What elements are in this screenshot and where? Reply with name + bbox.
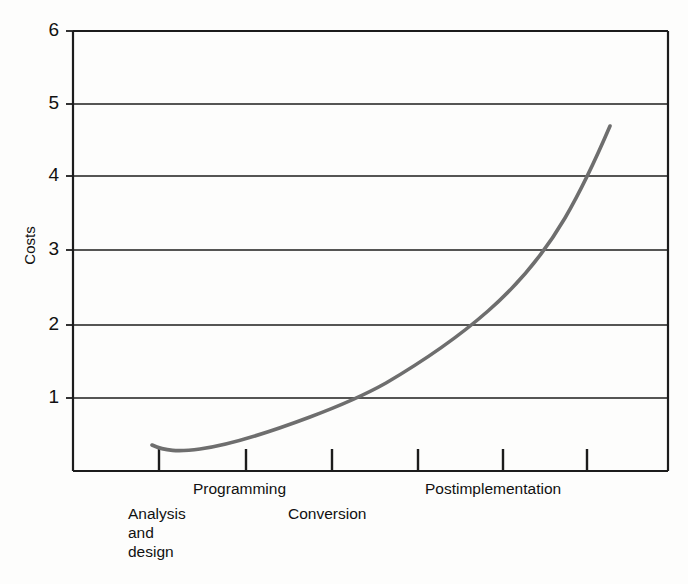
y-tick-label-4: 4: [35, 165, 59, 184]
cost-curve-figure: 6 5 4 3 2 1 Costs Programming Postimplem…: [0, 0, 688, 584]
phase-label-conversion: Conversion: [288, 504, 366, 523]
y-tick-label-1: 1: [35, 387, 59, 406]
y-tick-label-2: 2: [35, 314, 59, 333]
phase-label-postimplementation: Postimplementation: [425, 479, 561, 498]
phase-label-analysis-and-design: Analysis and design: [128, 504, 186, 561]
y-tick-label-6: 6: [35, 20, 59, 39]
y-tick-label-3: 3: [35, 239, 59, 258]
phase-label-programming: Programming: [193, 479, 286, 498]
chart-canvas: [0, 0, 688, 584]
plot-frame: [73, 31, 668, 471]
y-tick-label-5: 5: [35, 93, 59, 112]
y-axis-title: Costs: [21, 216, 38, 276]
gridlines-horizontal: [73, 104, 668, 398]
cost-curve-series: [152, 126, 610, 451]
x-axis-ticks: [159, 449, 587, 471]
